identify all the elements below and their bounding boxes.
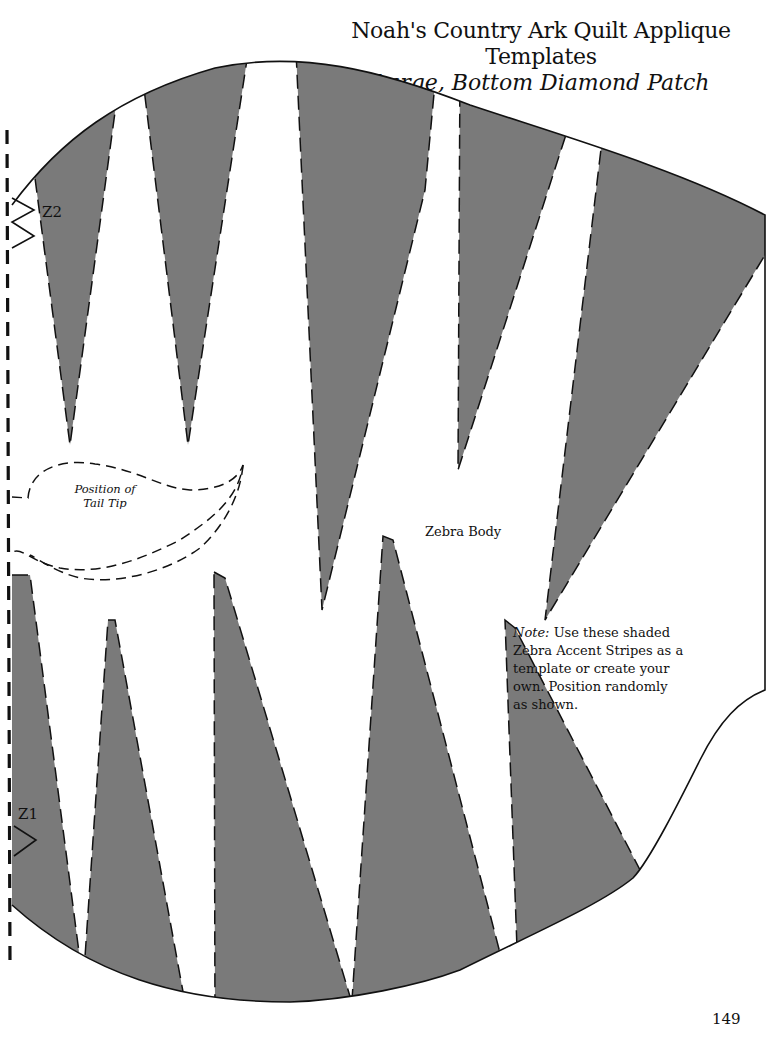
z2-label: Z2 <box>42 203 62 221</box>
seam-line <box>7 130 10 965</box>
tail-tip-label-line2: Tail Tip <box>60 496 150 510</box>
page-number: 149 <box>712 1010 741 1028</box>
zebra-body-label: Zebra Body <box>425 524 501 539</box>
z1-label: Z1 <box>18 805 38 823</box>
tail-tip-outline <box>12 462 243 579</box>
tail-tip-label: Position of Tail Tip <box>60 482 150 510</box>
note-text: Note: Use these shaded Zebra Accent Stri… <box>513 624 685 714</box>
note-prefix: Note: <box>513 625 550 640</box>
zebra-template-drawing <box>0 0 779 1053</box>
z2-marker <box>12 198 34 248</box>
accent-stripes <box>0 30 779 1030</box>
tail-tip-label-line1: Position of <box>60 482 150 496</box>
